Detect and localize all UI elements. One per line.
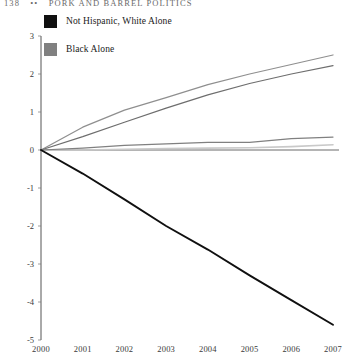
x-axis-tick-label: 2002 — [116, 344, 134, 354]
x-axis-tick-label: 2004 — [199, 344, 217, 354]
y-axis-tick-label: 3 — [30, 31, 34, 41]
figure: Not Hispanic, White Alone Black Alone 32… — [0, 0, 351, 362]
y-axis-tick-label: -1 — [27, 183, 34, 193]
line-chart: 3210-1-2-3-4-520002001200220032004200520… — [0, 0, 351, 362]
y-axis-tick-label: -2 — [27, 221, 34, 231]
x-axis-tick-label: 2000 — [32, 344, 50, 354]
series-line — [41, 150, 333, 325]
x-axis-tick-label: 2001 — [74, 344, 92, 354]
y-axis-tick-label: 1 — [30, 107, 34, 117]
series-line — [41, 66, 333, 150]
plot-area: 3210-1-2-3-4-520002001200220032004200520… — [0, 0, 351, 362]
y-axis-tick-label: -3 — [27, 259, 34, 269]
x-axis-tick-label: 2003 — [157, 344, 175, 354]
x-axis-tick-label: 2006 — [282, 344, 300, 354]
y-axis-tick-label: 2 — [30, 69, 34, 79]
series-line — [41, 145, 333, 150]
y-axis-tick-label: 0 — [30, 145, 34, 155]
x-axis-tick-label: 2007 — [324, 344, 342, 354]
x-axis-tick-label: 2005 — [241, 344, 259, 354]
y-axis-tick-label: -4 — [27, 297, 35, 307]
